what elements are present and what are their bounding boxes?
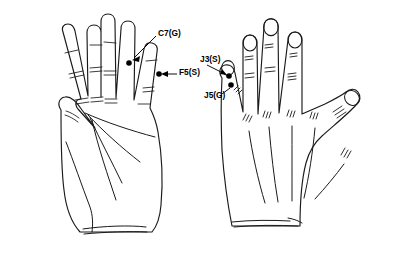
right-metacarpal-line-thumb: [315, 164, 344, 199]
point-dot-f5s[interactable]: [156, 71, 162, 77]
point-label-j5g-text: J5(G): [204, 90, 226, 100]
point-label-f5s-text: F5(S): [179, 67, 200, 77]
right-hand-outline: [220, 19, 360, 226]
arrowhead-f5s: [161, 71, 168, 77]
point-dot-c7g[interactable]: [126, 60, 132, 66]
point-dot-j3s[interactable]: [226, 73, 232, 79]
right-knuckle-hatch-thumb: [341, 148, 351, 158]
hand-diagram-canvas: C7(G) F5(S) J3(S) J5(G): [0, 0, 404, 255]
point-label-j3s-text: J3(S): [200, 54, 221, 64]
left-hand-palmar-view: [59, 14, 162, 234]
hand-diagram-figure: C7(G) F5(S) J3(S) J5(G): [0, 0, 404, 255]
right-hand-dorsal-view: [220, 18, 363, 227]
point-label-c7g-text: C7(G): [158, 28, 181, 38]
point-dot-j5g[interactable]: [228, 82, 234, 88]
annotation-f5s[interactable]: F5(S): [156, 67, 200, 77]
